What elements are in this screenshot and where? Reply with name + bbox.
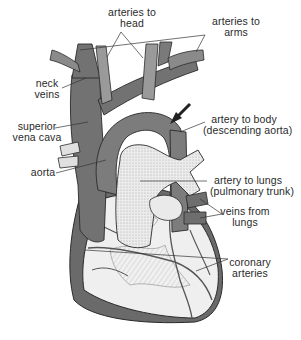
label-veins-from-lungs: veins from lungs xyxy=(220,206,270,228)
label-arteries-to-head: arteries to head xyxy=(102,7,162,29)
label-line: (descending aorta) xyxy=(203,125,285,136)
label-arteries-to-arms: arteries to arms xyxy=(206,16,266,38)
label-line: arms xyxy=(206,27,266,38)
label-line: aorta xyxy=(30,167,56,178)
label-line: veins xyxy=(30,89,64,100)
label-coronary-arteries: coronary arteries xyxy=(228,257,272,279)
label-artery-to-body: artery to body (descending aorta) xyxy=(203,114,285,136)
label-artery-to-lungs: artery to lungs (pulmonary trunk) xyxy=(210,175,286,197)
label-line: arteries xyxy=(228,268,272,279)
label-superior-vena-cava: superior vena cava xyxy=(12,121,62,143)
label-line: vena cava xyxy=(12,132,62,143)
label-neck-veins: neck veins xyxy=(30,78,64,100)
pointer-arrow xyxy=(170,104,190,124)
label-aorta: aorta xyxy=(30,167,56,178)
label-line: (pulmonary trunk) xyxy=(210,186,286,197)
label-line: lungs xyxy=(220,217,270,228)
label-line: head xyxy=(102,18,162,29)
